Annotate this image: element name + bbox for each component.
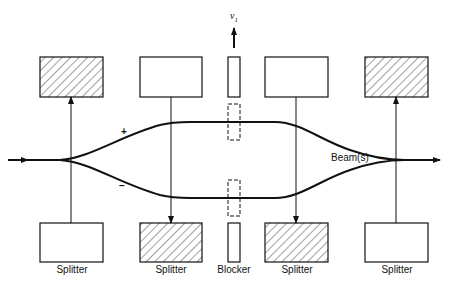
bottom-splitter-4 bbox=[265, 223, 328, 262]
velocity-subscript: 1 bbox=[234, 16, 238, 24]
bottom-label-4: Splitter bbox=[281, 264, 312, 275]
minus-sign: – bbox=[119, 180, 125, 191]
bottom-splitter-2 bbox=[140, 223, 202, 262]
velocity-label: v1 bbox=[230, 10, 238, 24]
bottom-label-2: Splitter bbox=[155, 264, 186, 275]
diagram-canvas bbox=[0, 0, 450, 283]
bottom-label-3: Blocker bbox=[217, 264, 250, 275]
beam-label: Beam(s) bbox=[331, 152, 369, 163]
bottom-label-1: Splitter bbox=[56, 264, 87, 275]
bottom-splitter-1 bbox=[40, 223, 103, 262]
top-blocker bbox=[228, 57, 240, 97]
bottom-label-5: Splitter bbox=[381, 264, 412, 275]
bottom-blocker bbox=[228, 223, 240, 262]
top-splitter-2 bbox=[140, 57, 202, 97]
top-splitter-5 bbox=[365, 57, 428, 97]
bottom-splitter-5 bbox=[365, 223, 428, 262]
top-splitter-4 bbox=[265, 57, 328, 97]
plus-sign: + bbox=[121, 126, 127, 137]
top-splitter-1 bbox=[40, 57, 103, 97]
beam-lower-path bbox=[60, 160, 405, 198]
